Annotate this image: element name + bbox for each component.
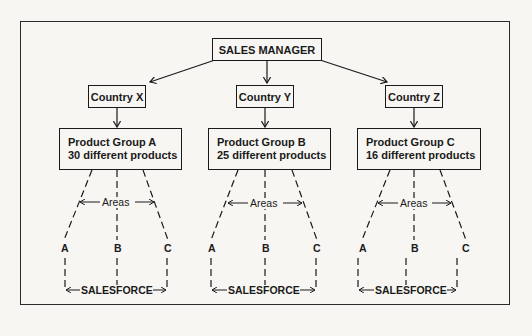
salesforce-label: SALESFORCE bbox=[81, 285, 153, 296]
country-label: Country Z bbox=[388, 91, 440, 103]
area-a: A bbox=[61, 243, 69, 254]
group-name: Product Group B bbox=[217, 136, 330, 149]
country-y-box: Country Y bbox=[236, 85, 294, 108]
area-b: B bbox=[262, 243, 270, 254]
area-b: B bbox=[114, 243, 122, 254]
group-name: Product Group A bbox=[68, 136, 181, 149]
country-z-box: Country Z bbox=[385, 85, 443, 108]
sales-manager-label: SALES MANAGER bbox=[219, 44, 316, 56]
group-product-count: 25 different products bbox=[217, 149, 330, 162]
group-name: Product Group C bbox=[366, 136, 480, 149]
country-x-box: Country X bbox=[88, 85, 146, 108]
area-c: C bbox=[164, 243, 172, 254]
product-group-a-box: Product Group A30 different products bbox=[59, 128, 182, 170]
sales-manager-box: SALES MANAGER bbox=[212, 38, 322, 61]
area-b: B bbox=[411, 243, 419, 254]
group-product-count: 16 different products bbox=[366, 149, 480, 162]
area-a: A bbox=[208, 243, 216, 254]
group-product-count: 30 different products bbox=[68, 149, 181, 162]
salesforce-label: SALESFORCE bbox=[228, 285, 300, 296]
area-c: C bbox=[313, 243, 321, 254]
country-label: Country X bbox=[91, 91, 144, 103]
areas-label: Areas bbox=[250, 198, 277, 209]
product-group-c-box: Product Group C16 different products bbox=[357, 128, 481, 170]
salesforce-label: SALESFORCE bbox=[375, 285, 447, 296]
product-group-b-box: Product Group B25 different products bbox=[208, 128, 331, 170]
area-a: A bbox=[359, 243, 367, 254]
area-c: C bbox=[462, 243, 470, 254]
country-label: Country Y bbox=[239, 91, 291, 103]
areas-label: Areas bbox=[102, 197, 129, 208]
areas-label: Areas bbox=[400, 198, 427, 209]
